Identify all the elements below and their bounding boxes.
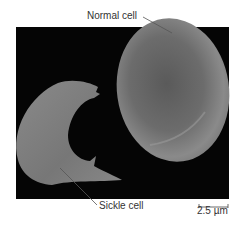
scale-bar-label: 2.5 µm [197, 205, 228, 216]
normal-red-blood-cell [108, 11, 239, 169]
normal-cell-label: Normal cell [87, 10, 137, 21]
cells-illustration [0, 0, 242, 230]
sickle-cell [16, 81, 122, 185]
sickle-cell-label: Sickle cell [99, 200, 143, 211]
